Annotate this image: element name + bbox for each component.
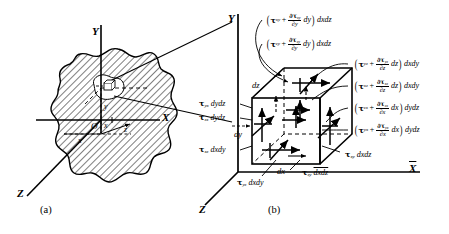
left-label-tau-yx: τyxdydz — [199, 99, 225, 109]
panel-a-origin-label: O — [91, 122, 98, 131]
panel-b-z-axis-label: Z — [199, 204, 206, 215]
panel-a-x-coord-label: x — [104, 122, 108, 130]
left-label-tau-xz: τxzdxdy — [199, 145, 226, 155]
right-label-tau-yx: ( τyx + ∂τyx∂x dx ) dydz — [354, 123, 420, 138]
panel-a-z-coord-label: z — [124, 126, 127, 134]
panel-a-caption: (a) — [40, 205, 52, 216]
panel-a-z-axis-label: Z — [17, 188, 24, 199]
right-label-tau-zx: ( τzx + ∂τzx∂x dx ) dydz — [354, 101, 419, 116]
dimension-label-dz: dz — [252, 81, 260, 90]
panel-b-y-axis-label: Y — [228, 13, 235, 24]
panel-a-body — [51, 49, 177, 182]
left-label-tau-zx: τzxdydz — [199, 113, 225, 123]
bottom-label-tau-yz: τyzdxdy — [237, 178, 264, 188]
stress-element-figure: Y X Z O x y z x (a) Y X Z (b) dz dy dx (… — [0, 0, 449, 234]
right-label-tau-yz: ( τyz + ∂τyz∂z dz ) dxdy — [354, 57, 419, 72]
bottom-label-tau-zy: τzydxdz — [302, 168, 328, 178]
top-label-tau-zy: ( τzy + ∂τzy∂y dy ) dxdz — [266, 37, 331, 52]
panel-a-y-axis-label: Y — [92, 26, 99, 37]
panel-a-x-dim-label: x — [78, 137, 82, 145]
panel-b-x-axis-label: X — [409, 163, 416, 174]
top-label-tau-xy: ( τxy + ∂τxy∂y dy ) dxdz — [266, 13, 332, 28]
panel-a-x-axis-label: X — [162, 112, 169, 123]
panel-b-caption: (b) — [268, 205, 280, 216]
right-label-tau-xz: ( τxz + ∂τxz∂z dz ) dxdy — [354, 79, 419, 94]
stress-arrows — [252, 74, 340, 160]
dimension-label-dy: dy — [234, 130, 242, 139]
bottom-label-tau-xy: τxydxdz — [345, 150, 371, 160]
dimension-label-dx: dx — [277, 167, 285, 176]
panel-a-y-coord-label: y — [104, 103, 108, 111]
